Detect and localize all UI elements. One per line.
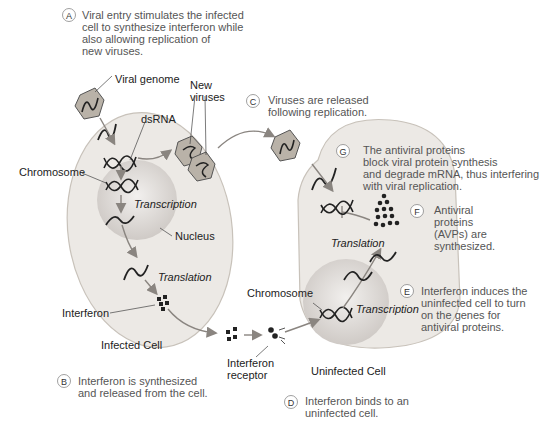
step-a-caption: Viral entry stimulates the infected cell… — [82, 9, 244, 57]
step-c-marker: C — [247, 95, 260, 108]
svg-text:D: D — [288, 398, 295, 408]
released-interferon-icon — [226, 327, 237, 341]
svg-text:A: A — [66, 11, 72, 21]
label-chromosome-right: Chromosome — [247, 287, 313, 299]
svg-text:Antiviral: Antiviral — [434, 204, 473, 216]
svg-text:Interferon induces the: Interferon induces the — [421, 285, 527, 297]
label-translation-right: Translation — [331, 237, 385, 249]
label-uninfected-cell: Uninfected Cell — [311, 365, 386, 377]
step-d-caption: Interferon binds to an uninfected cell. — [305, 395, 409, 419]
step-a-marker: A — [63, 9, 76, 22]
svg-text:cell to synthesize interferon: cell to synthesize interferon while — [82, 21, 243, 33]
svg-text:uninfected cell.: uninfected cell. — [305, 407, 378, 419]
interferon-receptor-icon — [268, 327, 285, 344]
label-new-viruses-line2: viruses — [190, 91, 225, 103]
step-f-marker: F — [411, 205, 424, 218]
label-interferon-receptor-line2: receptor — [227, 369, 268, 381]
svg-text:Interferon binds to an: Interferon binds to an — [305, 395, 409, 407]
interferon-diagram: A B C D E F G Viral entry stimulates the… — [0, 0, 549, 432]
step-e-caption: Interferon induces the uninfected cell t… — [421, 285, 527, 333]
label-transcription-left: Transcription — [134, 198, 197, 210]
svg-text:block viral protein synthesis: block viral protein synthesis — [363, 156, 498, 168]
svg-text:B: B — [61, 377, 67, 387]
step-g-caption: The antiviral proteins block viral prote… — [362, 144, 539, 192]
released-virus-icon — [271, 130, 300, 161]
svg-text:uninfected cell to turn: uninfected cell to turn — [421, 297, 526, 309]
svg-text:The antiviral proteins: The antiviral proteins — [363, 144, 466, 156]
step-c-caption: Viruses are released following replicati… — [268, 94, 369, 118]
label-translation-left: Translation — [158, 271, 212, 283]
label-interferon: Interferon — [62, 307, 109, 319]
step-b-caption: Interferon is synthesized and released f… — [78, 375, 208, 399]
step-g-marker: G — [337, 145, 350, 158]
svg-text:E: E — [404, 287, 410, 297]
step-b-marker: B — [58, 375, 71, 388]
svg-text:and released from the cell.: and released from the cell. — [78, 387, 208, 399]
svg-text:Viruses are released: Viruses are released — [268, 94, 369, 106]
label-interferon-receptor-line1: Interferon — [227, 357, 274, 369]
svg-text:Interferon is synthesized: Interferon is synthesized — [78, 375, 197, 387]
svg-text:following replication.: following replication. — [268, 106, 367, 118]
svg-text:proteins: proteins — [434, 216, 474, 228]
svg-text:also allowing replication of: also allowing replication of — [82, 33, 211, 45]
svg-text:F: F — [414, 207, 420, 217]
svg-text:Viral entry stimulates the inf: Viral entry stimulates the infected — [82, 9, 244, 21]
step-e-marker: E — [401, 285, 414, 298]
svg-text:synthesized.: synthesized. — [434, 240, 495, 252]
infected-cell — [52, 102, 247, 359]
nucleus-right — [303, 259, 389, 345]
label-viral-genome: Viral genome — [115, 73, 180, 85]
virus-entering-icon — [75, 88, 104, 119]
svg-text:new viruses.: new viruses. — [82, 45, 143, 57]
svg-text:with viral replication.: with viral replication. — [362, 180, 462, 192]
label-transcription-right: Transcription — [356, 303, 419, 315]
svg-text:antiviral proteins.: antiviral proteins. — [421, 321, 504, 333]
svg-text:and degrade mRNA, thus interfe: and degrade mRNA, thus interfering — [363, 168, 539, 180]
svg-text:(AVPs) are: (AVPs) are — [434, 228, 487, 240]
step-d-marker: D — [285, 396, 298, 409]
svg-text:C: C — [250, 97, 257, 107]
label-dsrna: dsRNA — [141, 113, 177, 125]
step-f-caption: Antiviral proteins (AVPs) are synthesize… — [434, 204, 495, 252]
label-chromosome-left: Chromosome — [19, 166, 85, 178]
label-new-viruses-line1: New — [190, 79, 212, 91]
label-infected-cell: Infected Cell — [101, 339, 162, 351]
label-nucleus: Nucleus — [175, 230, 215, 242]
svg-text:on the genes for: on the genes for — [421, 309, 501, 321]
svg-text:G: G — [339, 147, 346, 157]
